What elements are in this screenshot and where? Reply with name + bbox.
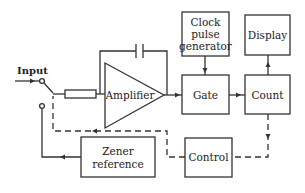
zener-label-line1: Zener [102,145,134,157]
dashed-count-control [232,114,268,157]
clock-label-line1: Clock [191,16,222,28]
arrow-control-switch [92,129,97,134]
arrow-gate-count [236,93,241,98]
arrow-count-control [266,134,271,139]
amplifier-label: Amplifier [104,89,155,101]
zener-reference-block [81,137,155,177]
clock-label-line3: generator [179,40,233,52]
clock-label-line2: pulse [191,28,219,40]
switch-contact-reference [40,104,45,109]
block-diagram: Input Amplifier Clock pulse generator Di… [0,0,305,193]
gate-label: Gate [193,89,218,101]
zener-label-line2: reference [92,158,143,170]
resistor [65,90,96,98]
wire-zener-switch [42,108,81,157]
arrow-zener-switch [60,155,65,160]
count-label: Count [251,89,284,101]
control-label: Control [188,151,229,163]
display-label: Display [248,29,288,41]
arrow-count-display [266,62,271,67]
input-label: Input [17,65,48,76]
arrow-input [30,79,35,84]
arrow-amp-gate [175,93,180,98]
switch-contact-input [40,79,45,84]
arrow-clock-gate [203,68,208,73]
switch-arm [44,83,53,93]
